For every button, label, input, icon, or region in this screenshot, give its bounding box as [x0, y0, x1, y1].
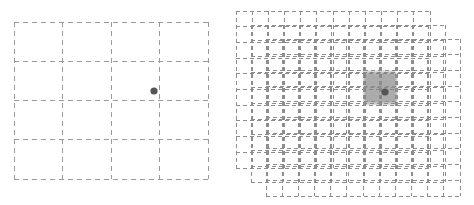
query-point — [381, 88, 388, 95]
grid-layer — [236, 11, 430, 168]
figure-canvas — [0, 0, 474, 205]
right-panel — [0, 0, 474, 205]
right-panel-graphics — [0, 0, 474, 205]
grid-layer — [266, 39, 460, 196]
grid-layer — [251, 25, 445, 182]
